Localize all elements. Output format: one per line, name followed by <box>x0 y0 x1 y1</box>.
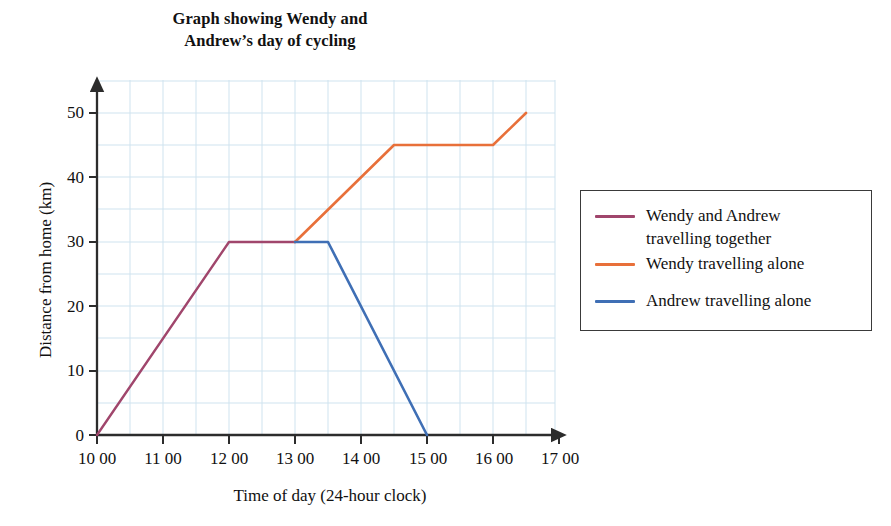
legend-label-together-line-2: travelling together <box>646 229 771 248</box>
legend-item-wendy-alone: Wendy travelling alone <box>595 253 804 276</box>
legend-swatch-together <box>595 215 635 218</box>
grid-lines <box>97 80 555 435</box>
chart-figure: Graph showing Wendy and Andrew’s day of … <box>0 0 891 526</box>
y-axis-ticks <box>89 113 97 435</box>
legend-swatch-wendy-alone <box>595 263 635 266</box>
x-axis-ticks <box>97 435 559 444</box>
legend-label-andrew-alone: Andrew travelling alone <box>646 290 811 313</box>
legend-label-together-line-1: Wendy and Andrew <box>646 206 781 225</box>
legend-label-together: Wendy and Andrew travelling together <box>646 205 781 250</box>
legend-swatch-andrew-alone <box>595 300 635 303</box>
legend-label-wendy-alone: Wendy travelling alone <box>646 253 804 276</box>
chart-legend: Wendy and Andrew travelling together Wen… <box>580 190 872 331</box>
legend-item-together: Wendy and Andrew travelling together <box>595 205 781 250</box>
legend-item-andrew-alone: Andrew travelling alone <box>595 290 811 313</box>
